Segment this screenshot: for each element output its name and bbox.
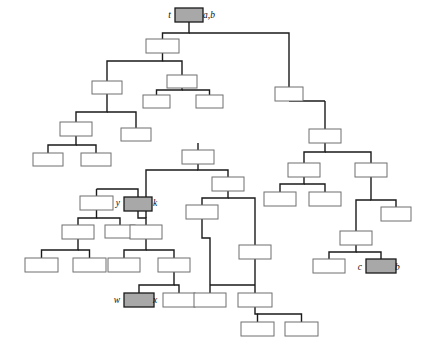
node-label-ab: a,b — [203, 10, 215, 20]
tree-node[interactable] — [355, 163, 387, 177]
tree-edge — [97, 218, 121, 225]
node-label-t: t — [168, 10, 171, 20]
tree-node[interactable] — [73, 258, 106, 272]
tree-edge — [42, 239, 79, 258]
node-label-c: c — [358, 262, 363, 272]
tree-edge — [304, 143, 325, 163]
tree-node[interactable] — [33, 153, 63, 166]
node-label-k: k — [153, 198, 158, 208]
tree-node[interactable] — [60, 122, 92, 136]
tree-node[interactable] — [285, 322, 318, 336]
tree-edge — [258, 314, 302, 322]
tree-edge — [280, 177, 304, 192]
tree-edge — [356, 252, 381, 259]
tree-edge — [107, 53, 163, 81]
tree-node-shaded[interactable] — [124, 197, 152, 211]
tree-node[interactable] — [146, 39, 179, 53]
tree-node[interactable] — [143, 95, 170, 108]
tree-diagram-canvas: ta,bykwxcb — [0, 0, 421, 345]
tree-edge — [157, 88, 183, 95]
node-label-y: y — [115, 198, 121, 208]
tree-edge — [210, 285, 255, 293]
tree-node[interactable] — [313, 259, 345, 273]
tree-node[interactable] — [186, 205, 218, 219]
tree-node-shaded[interactable] — [124, 293, 154, 307]
tree-edge — [174, 285, 179, 293]
tree-edge — [189, 33, 289, 87]
tree-edge — [202, 219, 210, 293]
tree-edge — [329, 245, 356, 259]
tree-node[interactable] — [275, 87, 303, 101]
tree-edge — [325, 152, 371, 163]
tree-edge — [124, 239, 146, 258]
tree-edge — [356, 200, 371, 231]
tree-node[interactable] — [158, 258, 190, 272]
node-label-x: x — [152, 295, 158, 305]
edge-layer — [42, 22, 397, 322]
tree-edge — [146, 170, 198, 197]
tree-node[interactable] — [309, 129, 341, 143]
node-label-w: w — [114, 295, 121, 305]
tree-edge — [182, 90, 210, 95]
tree-node[interactable] — [92, 81, 122, 94]
node-label-b: b — [395, 262, 400, 272]
tree-edge — [48, 136, 76, 153]
tree-node[interactable] — [25, 258, 58, 272]
tree-node-shaded[interactable] — [366, 259, 396, 273]
tree-edge — [202, 191, 228, 205]
tree-node[interactable] — [163, 293, 195, 307]
tree-edge — [198, 164, 228, 177]
tree-node[interactable] — [264, 192, 296, 206]
tree-node[interactable] — [241, 322, 274, 336]
tree-edge — [138, 211, 146, 225]
tree-node[interactable] — [108, 258, 140, 272]
tree-node[interactable] — [340, 231, 372, 245]
tree-node[interactable] — [309, 192, 341, 206]
tree-node[interactable] — [81, 153, 111, 166]
label-layer: ta,bykwxcb — [114, 10, 400, 305]
tree-edge — [255, 307, 258, 322]
tree-edge — [163, 61, 183, 75]
tree-node[interactable] — [194, 293, 226, 307]
tree-node[interactable] — [238, 293, 272, 307]
tree-node[interactable] — [381, 207, 411, 221]
tree-edge — [78, 210, 97, 225]
tree-edge — [304, 184, 325, 192]
tree-node[interactable] — [80, 196, 113, 210]
tree-edge — [371, 177, 396, 207]
tree-node[interactable] — [62, 225, 94, 239]
tree-node[interactable] — [212, 177, 244, 191]
tree-edge — [146, 250, 174, 258]
tree-node[interactable] — [130, 225, 162, 239]
tree-edge — [163, 22, 190, 39]
tree-edge — [228, 198, 255, 245]
tree-node[interactable] — [167, 75, 197, 88]
tree-node[interactable] — [182, 150, 214, 164]
tree-node[interactable] — [239, 245, 271, 259]
tree-svg: ta,bykwxcb — [0, 0, 421, 345]
tree-edge — [139, 272, 174, 293]
tree-edge — [76, 145, 96, 153]
tree-node[interactable] — [121, 128, 151, 141]
tree-edge — [107, 112, 136, 128]
tree-node-shaded[interactable] — [175, 8, 203, 22]
tree-node[interactable] — [196, 95, 223, 108]
tree-edge — [76, 94, 107, 122]
node-layer — [25, 8, 411, 336]
tree-node[interactable] — [288, 163, 320, 177]
tree-edge — [78, 250, 90, 258]
